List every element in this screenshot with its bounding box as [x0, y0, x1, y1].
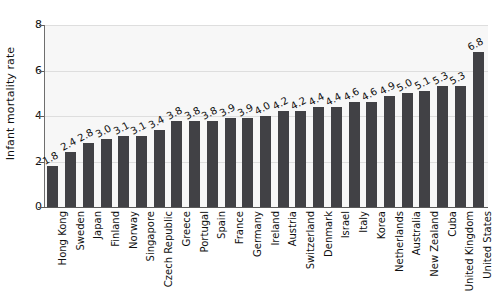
bar-slot[interactable]: 6.8	[473, 25, 484, 207]
bar-slot[interactable]: 3.9	[225, 25, 236, 207]
bars-layer: 1.82.42.83.03.13.13.43.83.83.83.93.94.04…	[44, 25, 487, 207]
x-category-label: Israel	[340, 211, 351, 238]
y-axis-tick	[39, 162, 44, 163]
bar-slot[interactable]: 2.8	[83, 25, 94, 207]
bar-slot[interactable]: 3.1	[136, 25, 147, 207]
bar[interactable]	[473, 52, 484, 207]
bar-slot[interactable]: 5.3	[437, 25, 448, 207]
y-axis-tick	[39, 116, 44, 117]
x-category-label: Korea	[376, 211, 387, 239]
bar[interactable]	[136, 136, 147, 207]
bar[interactable]	[154, 130, 165, 207]
bar-slot[interactable]: 3.8	[189, 25, 200, 207]
bar[interactable]	[118, 136, 129, 207]
bar[interactable]	[207, 121, 218, 207]
bar-value-label: 5.3	[449, 71, 468, 87]
x-category-label: France	[234, 211, 245, 244]
bar-slot[interactable]: 4.0	[260, 25, 271, 207]
x-category-label: Australia	[411, 211, 422, 255]
bar[interactable]	[242, 118, 253, 207]
bar-chart: Infant mortality rate 02468 1.82.42.83.0…	[0, 0, 503, 304]
bar-value-label: 1.8	[41, 150, 60, 166]
bar-slot[interactable]: 3.8	[207, 25, 218, 207]
bar[interactable]	[65, 152, 76, 207]
bar-value-label: 4.9	[378, 80, 397, 96]
bar[interactable]	[189, 121, 200, 207]
bar[interactable]	[331, 107, 342, 207]
bar-slot[interactable]: 4.9	[384, 25, 395, 207]
bar-slot[interactable]: 1.8	[47, 25, 58, 207]
bar-value-label: 3.9	[218, 103, 237, 119]
x-axis-line	[38, 207, 488, 208]
x-category-label: Ireland	[270, 211, 281, 246]
bar-value-label: 3.1	[130, 121, 149, 137]
bar-value-label: 3.0	[94, 123, 113, 139]
bar[interactable]	[47, 166, 58, 207]
bar[interactable]	[260, 116, 271, 207]
bar-slot[interactable]: 5.3	[455, 25, 466, 207]
bar-value-label: 5.3	[431, 71, 450, 87]
bar-value-label: 4.6	[342, 87, 361, 103]
bar-value-label: 4.0	[254, 100, 273, 116]
x-category-label: United Kingdom	[464, 211, 475, 291]
bar[interactable]	[419, 91, 430, 207]
bar-slot[interactable]: 5.1	[419, 25, 430, 207]
x-axis-category-labels: Hong KongSwedenJapanFinlandNorwaySingapo…	[44, 211, 487, 304]
x-category-label: Germany	[252, 211, 263, 257]
bar-value-label: 3.8	[201, 105, 220, 121]
bar-slot[interactable]: 2.4	[65, 25, 76, 207]
bar-slot[interactable]: 3.0	[101, 25, 112, 207]
x-category-label: Italy	[358, 211, 369, 233]
bar[interactable]	[101, 139, 112, 207]
bar-value-label: 4.2	[289, 96, 308, 112]
bar[interactable]	[402, 93, 413, 207]
bar-value-label: 5.0	[395, 78, 414, 94]
x-category-label: Switzerland	[305, 211, 316, 269]
bar-value-label: 3.8	[165, 105, 184, 121]
x-category-label: Austria	[287, 211, 298, 246]
bar-value-label: 4.2	[271, 96, 290, 112]
bar-slot[interactable]: 3.1	[118, 25, 129, 207]
bar-value-label: 4.6	[360, 87, 379, 103]
bar-slot[interactable]: 5.0	[402, 25, 413, 207]
bar-slot[interactable]: 3.4	[154, 25, 165, 207]
x-category-label: Denmark	[323, 211, 334, 257]
x-category-label: United States	[482, 211, 493, 279]
bar[interactable]	[313, 107, 324, 207]
y-axis-title: Infant mortality rate	[3, 0, 19, 207]
bar-slot[interactable]: 3.8	[171, 25, 182, 207]
bar-slot[interactable]: 4.6	[349, 25, 360, 207]
bar-slot[interactable]: 4.6	[366, 25, 377, 207]
bar-value-label: 4.4	[307, 91, 326, 107]
x-category-label: Cuba	[447, 211, 458, 237]
bar[interactable]	[366, 102, 377, 207]
x-category-label: Norway	[128, 211, 139, 249]
y-axis-tick	[39, 71, 44, 72]
bar-slot[interactable]: 4.2	[295, 25, 306, 207]
x-category-label: Greece	[181, 211, 192, 247]
bar[interactable]	[295, 111, 306, 207]
bar-value-label: 3.1	[112, 121, 131, 137]
bar[interactable]	[171, 121, 182, 207]
bar-slot[interactable]: 4.4	[331, 25, 342, 207]
bar[interactable]	[437, 86, 448, 207]
bar[interactable]	[384, 96, 395, 207]
bar-value-label: 2.8	[76, 128, 95, 144]
bar[interactable]	[225, 118, 236, 207]
bar[interactable]	[455, 86, 466, 207]
bar[interactable]	[83, 143, 94, 207]
x-category-label: Singapore	[145, 211, 156, 261]
bar[interactable]	[349, 102, 360, 207]
x-category-label: New Zealand	[429, 211, 440, 277]
bar-value-label: 3.8	[183, 105, 202, 121]
x-category-label: Spain	[216, 211, 227, 239]
bar-slot[interactable]: 3.9	[242, 25, 253, 207]
x-category-label: Netherlands	[394, 211, 405, 272]
y-axis-tick	[39, 25, 44, 26]
x-category-label: Sweden	[75, 211, 86, 251]
bar-slot[interactable]: 4.2	[278, 25, 289, 207]
bar-value-label: 6.8	[466, 37, 485, 53]
x-category-label: Hong Kong	[57, 211, 68, 265]
bar-slot[interactable]: 4.4	[313, 25, 324, 207]
bar[interactable]	[278, 111, 289, 207]
